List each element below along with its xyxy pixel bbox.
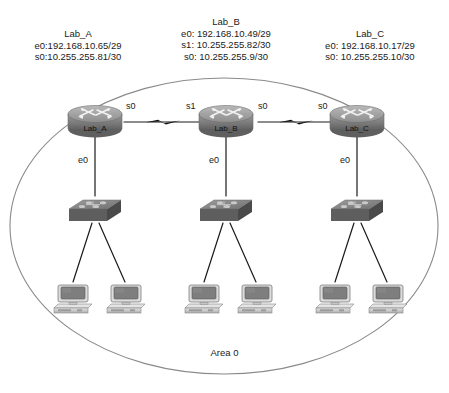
switch-icon-c[interactable] xyxy=(331,200,383,221)
router-label-lab-c: Lab_C xyxy=(345,124,369,133)
router-info-lab-c: Lab_C e0: 192.168.10.17/29 s0: 10.255.25… xyxy=(292,28,448,63)
iface-label-lab-b-s0: s0 xyxy=(258,101,268,111)
router-info-line-e0-lab-c: e0: 192.168.10.17/29 xyxy=(292,40,448,52)
iface-label-lab-c-s0: s0 xyxy=(318,101,328,111)
pc-icon-c2[interactable] xyxy=(369,285,407,313)
link-switch-c-pc-c2 xyxy=(361,223,387,282)
router-lab-b[interactable]: Lab_B xyxy=(199,106,253,138)
iface-label-lab-a-s0: s0 xyxy=(126,101,136,111)
switch-icon-b[interactable] xyxy=(200,200,252,221)
link-switch-b-pc-b2 xyxy=(230,223,256,282)
router-info-line-s0-lab-b: s0: 10.255.255.9/30 xyxy=(148,51,304,63)
network-diagram-canvas: Lab_A Lab_B Lab_C Lab_A e0:192.168.10.65… xyxy=(0,0,449,393)
router-lab-a[interactable]: Lab_A xyxy=(68,106,122,138)
area-label: Area 0 xyxy=(0,347,449,358)
router-label-lab-a: Lab_A xyxy=(83,124,107,133)
pc-icon-a1[interactable] xyxy=(54,285,92,313)
pc-icon-a2[interactable] xyxy=(107,285,145,313)
router-info-lab-a: Lab_A e0:192.168.10.65/29 s0:10.255.255.… xyxy=(0,28,156,63)
router-label-lab-b: Lab_B xyxy=(214,124,237,133)
router-info-line-e0-lab-b: e0: 192.168.10.49/29 xyxy=(148,28,304,40)
router-info-title-lab-c: Lab_C xyxy=(292,28,448,40)
router-info-line-e0-lab-a: e0:192.168.10.65/29 xyxy=(0,40,156,52)
router-lab-c[interactable]: Lab_C xyxy=(330,106,384,138)
link-switch-b-pc-b1 xyxy=(204,223,223,282)
link-switch-a-pc-a2 xyxy=(99,223,125,282)
iface-label-lab-a-e0: e0 xyxy=(78,155,88,165)
link-switch-a-pc-a1 xyxy=(73,223,92,282)
link-switch-c-pc-c1 xyxy=(335,223,354,282)
switch-icon-a[interactable] xyxy=(69,200,121,221)
router-info-line-s1-lab-b: s1: 10.255.255.82/30 xyxy=(148,39,304,51)
router-info-title-lab-b: Lab_B xyxy=(148,16,304,28)
router-info-line-s0-lab-a: s0:10.255.255.81/30 xyxy=(0,51,156,63)
iface-label-lab-b-s1: s1 xyxy=(186,101,196,111)
router-info-line-s0-lab-c: s0: 10.255.255.10/30 xyxy=(292,51,448,63)
iface-label-lab-c-e0: e0 xyxy=(340,155,350,165)
router-info-title-lab-a: Lab_A xyxy=(0,28,156,40)
pc-icon-b1[interactable] xyxy=(185,285,223,313)
pc-icon-c1[interactable] xyxy=(316,285,354,313)
router-info-lab-b: Lab_B e0: 192.168.10.49/29 s1: 10.255.25… xyxy=(148,16,304,62)
iface-label-lab-b-e0: e0 xyxy=(209,155,219,165)
pc-icon-b2[interactable] xyxy=(238,285,276,313)
